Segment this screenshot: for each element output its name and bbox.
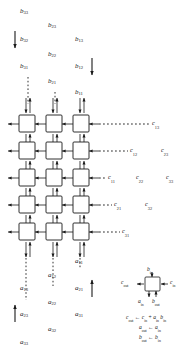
a-input-label: a23 — [20, 311, 28, 318]
b-input-label: b33 — [20, 8, 28, 15]
cell — [19, 142, 35, 159]
cell — [46, 169, 62, 186]
cell — [73, 169, 89, 186]
legend-port-a-in: ain — [138, 298, 144, 309]
a-input-label: a33 — [20, 339, 28, 346]
legend-port-b-out: bout — [152, 298, 160, 309]
b-input-label: b22 — [48, 51, 56, 58]
c-output-label: c13 — [152, 120, 159, 130]
formula-b-out: bout ← bin — [139, 334, 161, 345]
cell — [46, 223, 62, 240]
b-input-label: b32 — [20, 36, 28, 43]
c-output-label: c11 — [108, 174, 115, 184]
a-input-label: a13 — [20, 285, 28, 292]
cell — [46, 142, 62, 159]
c-output-label: c21 — [114, 201, 121, 211]
cell — [19, 169, 35, 186]
b-input-label: b31 — [20, 63, 28, 70]
legend-port-b-in: bin — [147, 266, 153, 277]
cell — [19, 223, 35, 240]
cell — [73, 223, 89, 240]
a-input-label: a31 — [75, 311, 83, 318]
c-output-label: c23 — [161, 147, 168, 157]
a-input-label: a32 — [48, 326, 56, 333]
legend-port-c-out: cout — [121, 279, 128, 290]
systolic-array-diagram — [0, 0, 191, 353]
c-output-label: c31 — [122, 228, 129, 238]
legend-port-c-in: cin — [170, 279, 175, 290]
b-input-label: b23 — [48, 22, 56, 29]
c-output-label: c12 — [130, 147, 137, 157]
b-input-label: b13 — [75, 36, 83, 43]
b-input-label: b11 — [75, 89, 83, 96]
formula-c-out: cout ← cin + ain bin — [126, 314, 166, 325]
cell — [19, 196, 35, 213]
c-output-label: c32 — [145, 201, 152, 211]
cell — [46, 115, 62, 132]
cell — [46, 196, 62, 213]
a-input-label: a21 — [75, 285, 83, 292]
cell — [19, 115, 35, 132]
a-input-label: a11 — [75, 258, 83, 265]
cell-grid — [19, 115, 89, 240]
a-input-label: a22 — [48, 299, 56, 306]
cell — [73, 196, 89, 213]
cell — [73, 142, 89, 159]
a-input-label: a12 — [48, 272, 56, 279]
b-input-label: b12 — [75, 63, 83, 70]
c-output-label: c33 — [166, 174, 173, 184]
c-output-label: c22 — [136, 174, 143, 184]
cell — [73, 115, 89, 132]
formula-a-out: aout ← ain — [139, 324, 161, 335]
dashed-input-lines-bottom — [26, 258, 80, 300]
b-input-label: b21 — [48, 78, 56, 85]
